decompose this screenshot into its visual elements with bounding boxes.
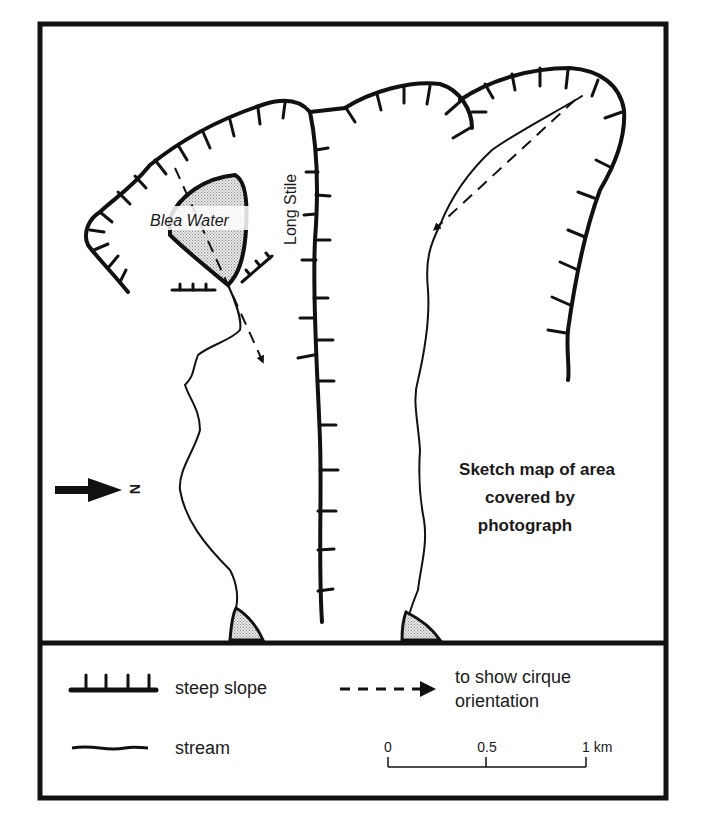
north-label: N [127,484,143,494]
label-long-stile: Long Stile [282,174,299,245]
map-title: Sketch map of area covered by photograph [459,460,615,535]
steep-slope-middle-cirque [310,83,486,138]
steep-slope-long-stile [298,112,338,622]
svg-text:Sketch map of area: Sketch map of area [459,460,615,479]
label-blea-water: Blea Water [150,212,230,229]
stream-blea-outlet [180,285,241,608]
legend-cirque-arrow-symbol [340,681,436,697]
north-arrow-head [88,478,122,502]
legend-stream-label: stream [175,738,230,758]
legend-cirque-label-line1: to show cirque [455,667,571,687]
scale-bar [388,757,586,767]
legend-steep-slope-label: steep slope [175,678,267,698]
legend-stream-symbol [72,747,148,749]
cirque-arrow-east [436,100,575,228]
scale-tick-half: 0.5 [477,739,497,755]
legend-cirque-label-line2: orientation [455,691,539,711]
steep-slope-east-cirque [460,68,624,380]
stipple-patch-west [230,608,263,640]
legend: steep slope stream to show cirque orient… [71,667,612,767]
stipple-patch-east [402,612,440,640]
scale-tick-1km: 1 km [582,739,612,755]
svg-text:photograph: photograph [478,516,572,535]
legend-steep-slope-symbol [71,675,156,690]
map-frame [40,24,666,798]
sketch-map: Blea Water Long Stile N Sketch map of ar… [0,0,701,825]
scale-tick-0: 0 [384,739,392,755]
north-arrow: N [55,478,143,502]
svg-text:covered by: covered by [485,488,575,507]
